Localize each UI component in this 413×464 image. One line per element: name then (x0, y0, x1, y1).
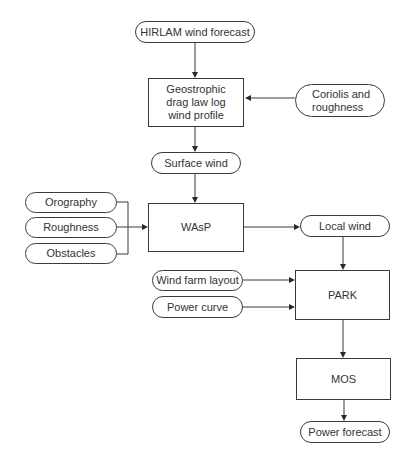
edge-orography-bracket (117, 202, 128, 254)
node-obstacles: Obstacles (25, 243, 117, 264)
node-orography: Orography (25, 192, 117, 213)
node-label: Coriolis and roughness (312, 88, 370, 114)
node-park: PARK (295, 270, 390, 320)
node-roughness: Roughness (25, 217, 117, 238)
node-wind-farm-layout: Wind farm layout (152, 270, 243, 291)
node-mos: MOS (296, 358, 391, 400)
node-surface-wind: Surface wind (151, 152, 241, 174)
node-coriolis-roughness: Coriolis and roughness (295, 84, 385, 117)
node-label: PARK (328, 289, 357, 302)
node-label: Power forecast (308, 426, 381, 439)
node-wasp: WAsP (148, 203, 244, 252)
node-label: Power curve (167, 301, 228, 314)
node-geostrophic-drag-law: Geostrophic drag law log wind profile (148, 78, 244, 127)
node-label: Geostrophic drag law log wind profile (166, 83, 225, 122)
node-label: Local wind (319, 220, 371, 233)
node-label: HIRLAM wind forecast (140, 26, 249, 39)
node-label: WAsP (181, 221, 211, 234)
node-local-wind: Local wind (300, 215, 390, 237)
node-hirlam-wind-forecast: HIRLAM wind forecast (135, 21, 255, 43)
node-label: Surface wind (164, 157, 228, 170)
node-label: Roughness (43, 221, 99, 234)
node-label: MOS (331, 373, 356, 386)
arrowhead-icon (245, 95, 251, 101)
node-label: Wind farm layout (156, 274, 239, 287)
node-label: Obstacles (47, 247, 96, 260)
node-label: Orography (45, 196, 97, 209)
node-power-forecast: Power forecast (300, 421, 390, 443)
node-power-curve: Power curve (152, 296, 243, 318)
